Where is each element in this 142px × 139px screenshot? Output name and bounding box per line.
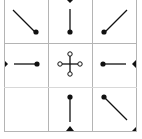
arrow-top-icon xyxy=(48,0,92,44)
anchor-cell-middle-right[interactable] xyxy=(92,43,136,87)
anchor-cell-bottom-right[interactable] xyxy=(92,87,136,131)
anchor-cell-bottom-left[interactable] xyxy=(4,87,48,131)
arrow-top-right-icon xyxy=(92,0,136,44)
arrow-right-icon xyxy=(92,43,136,87)
anchor-cell-top-center[interactable] xyxy=(48,0,92,44)
anchor-cell-top-left[interactable] xyxy=(4,0,48,44)
anchor-cell-bottom-center[interactable] xyxy=(48,87,92,131)
anchor-cell-center[interactable] xyxy=(48,43,92,87)
arrow-top-left-icon xyxy=(4,0,48,44)
anchor-grid xyxy=(4,0,136,131)
move-center-icon xyxy=(48,43,92,87)
arrow-left-icon xyxy=(4,43,48,87)
anchor-cell-top-right[interactable] xyxy=(92,0,136,44)
anchor-cell-middle-left[interactable] xyxy=(4,43,48,87)
arrow-bottom-icon xyxy=(48,87,92,131)
arrow-bottom-right-icon xyxy=(92,87,136,131)
